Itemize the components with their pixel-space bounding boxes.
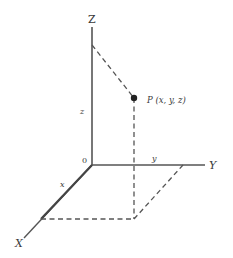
dashed-z-to-p [92, 45, 134, 98]
origin-label: 0 [82, 156, 87, 165]
x-axis-label: X [14, 237, 24, 250]
point-p-label: P (x, y, z) [146, 95, 186, 105]
y-component-label: y [151, 154, 157, 163]
dashed-base-to-y [134, 165, 183, 219]
z-component-label: z [79, 107, 85, 116]
x-axis-segment-bold [41, 165, 92, 219]
z-axis-label: Z [88, 13, 96, 26]
x-component-label: x [60, 180, 65, 189]
y-axis-label: Y [209, 159, 218, 172]
point-p-marker [131, 95, 137, 101]
coordinate-diagram: Z Y X 0 z y x P (x, y, z) [0, 0, 233, 258]
